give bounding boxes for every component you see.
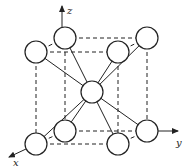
atom-bottom-back-left xyxy=(54,120,76,142)
y-axis-label: y xyxy=(175,137,182,148)
atom-top-front-left xyxy=(25,41,47,63)
x-axis xyxy=(9,149,26,157)
x-axis-label: x xyxy=(13,157,19,168)
atom-bottom-front-right xyxy=(107,133,129,155)
bcc-crystal-diagram: z y x xyxy=(0,0,188,168)
atom-top-back-left xyxy=(54,27,76,49)
atom-top-front-right xyxy=(107,41,129,63)
atom-center xyxy=(81,81,103,103)
atom-bottom-back-right xyxy=(136,120,158,142)
atom-top-back-right xyxy=(136,27,158,49)
atom-bottom-front-left xyxy=(25,133,47,155)
z-axis-label: z xyxy=(66,5,73,16)
